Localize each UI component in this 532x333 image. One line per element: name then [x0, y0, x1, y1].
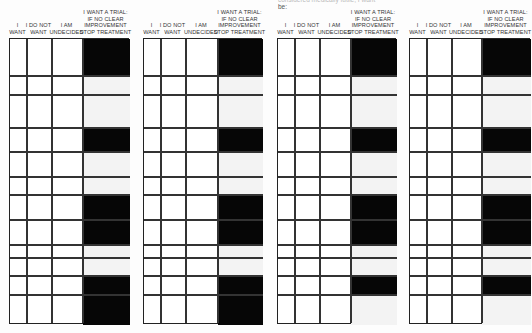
grid-cell-undecided[interactable] [186, 245, 218, 258]
grid-cell-undecided[interactable] [452, 195, 482, 220]
grid-cell-want[interactable] [144, 220, 161, 245]
grid-cell-do-not-want[interactable] [427, 295, 452, 325]
grid-cell-do-not-want[interactable] [295, 39, 320, 76]
grid-cell-undecided[interactable] [52, 95, 83, 128]
grid-cell-want[interactable] [10, 276, 27, 295]
grid-cell-want[interactable] [410, 245, 427, 258]
grid-cell-undecided[interactable] [186, 295, 218, 325]
grid-cell-want[interactable] [410, 276, 427, 295]
grid-cell-want[interactable] [410, 95, 427, 128]
grid-cell-trial[interactable] [351, 258, 397, 276]
grid-cell-undecided[interactable] [320, 258, 351, 276]
grid-cell-undecided[interactable] [452, 39, 482, 76]
grid-cell-trial[interactable] [482, 152, 531, 177]
grid-cell-do-not-want[interactable] [161, 245, 186, 258]
grid-cell-do-not-want[interactable] [27, 258, 52, 276]
grid-cell-undecided[interactable] [52, 76, 83, 95]
grid-cell-undecided[interactable] [52, 295, 83, 325]
grid-cell-undecided[interactable] [320, 245, 351, 258]
grid-cell-trial[interactable] [83, 152, 130, 177]
grid-cell-do-not-want[interactable] [27, 152, 52, 177]
grid-cell-undecided[interactable] [186, 152, 218, 177]
grid-cell-do-not-want[interactable] [427, 195, 452, 220]
grid-cell-do-not-want[interactable] [27, 95, 52, 128]
grid-cell-undecided[interactable] [52, 245, 83, 258]
grid-cell-want[interactable] [144, 177, 161, 195]
grid-cell-want[interactable] [144, 76, 161, 95]
grid-cell-do-not-want[interactable] [427, 220, 452, 245]
grid-cell-undecided[interactable] [186, 195, 218, 220]
grid-cell-undecided[interactable] [186, 128, 218, 152]
grid-cell-trial[interactable] [218, 152, 263, 177]
grid-cell-want[interactable] [10, 152, 27, 177]
grid-cell-do-not-want[interactable] [27, 295, 52, 325]
grid-cell-want[interactable] [410, 177, 427, 195]
grid-cell-undecided[interactable] [452, 276, 482, 295]
grid-cell-do-not-want[interactable] [161, 195, 186, 220]
grid-cell-want[interactable] [278, 152, 295, 177]
grid-cell-undecided[interactable] [320, 128, 351, 152]
grid-cell-undecided[interactable] [52, 276, 83, 295]
grid-cell-do-not-want[interactable] [161, 128, 186, 152]
grid-cell-do-not-want[interactable] [27, 276, 52, 295]
grid-cell-want[interactable] [278, 95, 295, 128]
grid-cell-want[interactable] [10, 39, 27, 76]
grid-cell-trial[interactable] [482, 177, 531, 195]
grid-cell-do-not-want[interactable] [295, 177, 320, 195]
grid-cell-trial[interactable] [218, 177, 263, 195]
grid-cell-trial[interactable] [351, 95, 397, 128]
grid-cell-undecided[interactable] [52, 258, 83, 276]
grid-cell-undecided[interactable] [452, 152, 482, 177]
grid-cell-undecided[interactable] [186, 276, 218, 295]
grid-cell-undecided[interactable] [52, 128, 83, 152]
grid-cell-do-not-want[interactable] [161, 95, 186, 128]
grid-cell-want[interactable] [410, 76, 427, 95]
grid-cell-want[interactable] [144, 39, 161, 76]
grid-cell-undecided[interactable] [452, 258, 482, 276]
grid-cell-do-not-want[interactable] [161, 152, 186, 177]
grid-cell-do-not-want[interactable] [427, 152, 452, 177]
grid-cell-want[interactable] [278, 258, 295, 276]
grid-cell-undecided[interactable] [320, 39, 351, 76]
grid-cell-trial[interactable] [351, 152, 397, 177]
grid-cell-want[interactable] [10, 95, 27, 128]
grid-cell-want[interactable] [10, 128, 27, 152]
grid-cell-undecided[interactable] [452, 220, 482, 245]
grid-cell-do-not-want[interactable] [27, 195, 52, 220]
grid-cell-trial[interactable] [83, 258, 130, 276]
grid-cell-undecided[interactable] [186, 39, 218, 76]
grid-cell-do-not-want[interactable] [427, 258, 452, 276]
grid-cell-want[interactable] [144, 245, 161, 258]
grid-cell-do-not-want[interactable] [295, 152, 320, 177]
grid-cell-want[interactable] [410, 295, 427, 325]
grid-cell-undecided[interactable] [452, 177, 482, 195]
grid-cell-undecided[interactable] [452, 245, 482, 258]
grid-cell-do-not-want[interactable] [161, 258, 186, 276]
grid-cell-undecided[interactable] [452, 128, 482, 152]
grid-cell-do-not-want[interactable] [295, 295, 320, 325]
grid-cell-do-not-want[interactable] [427, 128, 452, 152]
grid-cell-undecided[interactable] [52, 220, 83, 245]
grid-cell-do-not-want[interactable] [161, 177, 186, 195]
grid-cell-do-not-want[interactable] [427, 39, 452, 76]
grid-cell-undecided[interactable] [452, 295, 482, 325]
grid-cell-want[interactable] [144, 152, 161, 177]
grid-cell-trial[interactable] [351, 295, 397, 325]
grid-cell-do-not-want[interactable] [295, 258, 320, 276]
grid-cell-trial[interactable] [83, 177, 130, 195]
grid-cell-do-not-want[interactable] [427, 177, 452, 195]
grid-cell-undecided[interactable] [320, 177, 351, 195]
grid-cell-undecided[interactable] [320, 195, 351, 220]
grid-cell-want[interactable] [410, 195, 427, 220]
grid-cell-undecided[interactable] [320, 95, 351, 128]
grid-cell-want[interactable] [278, 245, 295, 258]
grid-cell-undecided[interactable] [52, 39, 83, 76]
grid-cell-trial[interactable] [218, 95, 263, 128]
grid-cell-undecided[interactable] [52, 177, 83, 195]
grid-cell-undecided[interactable] [186, 220, 218, 245]
grid-cell-trial[interactable] [83, 76, 130, 95]
grid-cell-undecided[interactable] [186, 177, 218, 195]
grid-cell-trial[interactable] [351, 245, 397, 258]
grid-cell-trial[interactable] [218, 245, 263, 258]
grid-cell-do-not-want[interactable] [161, 295, 186, 325]
